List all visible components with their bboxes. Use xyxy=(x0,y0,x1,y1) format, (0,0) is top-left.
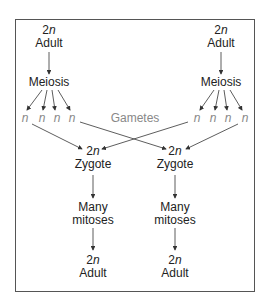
gametes-label: Gametes xyxy=(111,112,160,125)
gamete-n: n xyxy=(242,111,249,125)
left-parent-label: Adult xyxy=(35,37,62,50)
gamete-n: n xyxy=(69,111,76,125)
gamete-n: n xyxy=(194,111,201,125)
right-offspring-label: Adult xyxy=(161,267,188,280)
right-parent-label: Adult xyxy=(207,37,234,50)
gamete-n: n xyxy=(22,111,29,125)
right-meiosis-label: Meiosis xyxy=(201,76,242,89)
right-zygote-label: Zygote xyxy=(157,158,194,171)
gamete-n: n xyxy=(210,111,217,125)
gamete-n: n xyxy=(54,111,61,125)
gamete-n: n xyxy=(39,111,46,125)
right-mitoses-line2: mitoses xyxy=(154,214,195,227)
left-mitoses-line2: mitoses xyxy=(72,214,113,227)
gamete-n: n xyxy=(225,111,232,125)
left-zygote-label: Zygote xyxy=(75,158,112,171)
left-offspring-label: Adult xyxy=(79,267,106,280)
left-meiosis-label: Meiosis xyxy=(29,76,70,89)
